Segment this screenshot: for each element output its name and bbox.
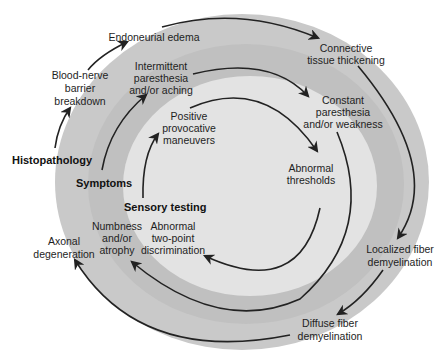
svg-text:Constant: Constant xyxy=(322,94,364,106)
svg-text:thresholds: thresholds xyxy=(287,174,335,186)
svg-text:Abnormal: Abnormal xyxy=(151,220,196,232)
ring-label-histopathology: Histopathology xyxy=(12,154,93,166)
ring-label-symptoms: Symptoms xyxy=(76,177,132,189)
svg-text:discrimination: discrimination xyxy=(141,244,205,256)
svg-text:Connective: Connective xyxy=(320,42,373,54)
stage-connective-tissue-thickening: Connective tissue thickening xyxy=(307,42,385,66)
svg-text:Intermittent: Intermittent xyxy=(135,60,188,72)
svg-text:Abnormal: Abnormal xyxy=(289,162,334,174)
svg-text:atrophy: atrophy xyxy=(99,244,135,256)
svg-text:Diffuse fiber: Diffuse fiber xyxy=(302,317,358,329)
svg-text:tissue thickening: tissue thickening xyxy=(307,54,385,66)
nerve-compression-progression-diagram: Histopathology Symptoms Sensory testing … xyxy=(0,0,438,352)
svg-text:Localized fiber: Localized fiber xyxy=(366,243,434,255)
svg-text:barrier: barrier xyxy=(65,82,96,94)
svg-text:breakdown: breakdown xyxy=(54,95,106,107)
stage-intermittent-paresthesia: Intermittent paresthesia and/or aching xyxy=(129,60,193,96)
svg-text:and/or: and/or xyxy=(102,232,132,244)
svg-text:and/or aching: and/or aching xyxy=(129,84,193,96)
svg-text:degeneration: degeneration xyxy=(33,248,94,260)
svg-text:demyelination: demyelination xyxy=(368,256,433,268)
svg-text:paresthesia: paresthesia xyxy=(316,106,370,118)
svg-text:provocative: provocative xyxy=(162,122,216,134)
svg-text:Positive: Positive xyxy=(171,110,208,122)
stage-endoneurial-edema: Endoneurial edema xyxy=(108,31,199,43)
svg-text:Endoneurial edema: Endoneurial edema xyxy=(108,31,199,43)
stage-localized-fiber-demyelination: Localized fiber demyelination xyxy=(366,243,434,268)
svg-text:demyelination: demyelination xyxy=(298,330,363,342)
svg-text:Axonal: Axonal xyxy=(48,235,80,247)
svg-text:paresthesia: paresthesia xyxy=(134,72,188,84)
svg-text:Blood-nerve: Blood-nerve xyxy=(52,69,109,81)
svg-text:two-point: two-point xyxy=(152,232,195,244)
svg-text:Numbness: Numbness xyxy=(92,220,142,232)
stage-abnormal-thresholds: Abnormal thresholds xyxy=(287,162,335,186)
svg-text:and/or weakness: and/or weakness xyxy=(303,118,382,130)
stage-diffuse-fiber-demyelination: Diffuse fiber demyelination xyxy=(298,317,363,342)
svg-text:maneuvers: maneuvers xyxy=(163,134,215,146)
ring-label-sensory-testing: Sensory testing xyxy=(124,201,207,213)
